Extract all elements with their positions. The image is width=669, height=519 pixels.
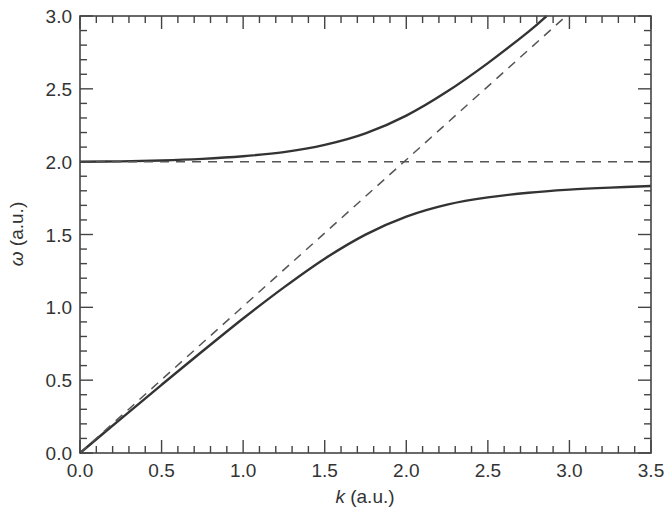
series-upper-polariton-branch — [80, 16, 547, 162]
x-tick-label: 0.5 — [148, 460, 174, 481]
x-axis-title: k (a.u.) — [335, 486, 394, 507]
y-axis-unit: (a.u.) — [6, 202, 27, 252]
plot-curves — [80, 16, 651, 453]
x-tick-label: 1.0 — [230, 460, 256, 481]
x-tick-label: 3.5 — [638, 460, 664, 481]
polariton-dispersion-chart: 0.00.51.01.52.02.53.03.5 0.00.51.01.52.0… — [0, 0, 669, 519]
series-lower-polariton-branch — [80, 186, 651, 453]
y-tick-label: 0.5 — [46, 370, 72, 391]
y-axis-variable: ω — [6, 251, 27, 266]
y-tick-label: 0.0 — [46, 443, 72, 464]
x-axis-unit: (a.u.) — [345, 486, 395, 507]
x-tick-label: 1.5 — [312, 460, 338, 481]
y-tick-label: 2.5 — [46, 79, 72, 100]
x-tick-label: 2.0 — [393, 460, 419, 481]
y-tick-labels: 0.00.51.01.52.02.53.0 — [46, 6, 72, 464]
y-tick-label: 3.0 — [46, 6, 72, 27]
x-tick-label: 2.5 — [475, 460, 501, 481]
y-axis-title: ω (a.u.) — [6, 202, 27, 266]
y-tick-label: 1.5 — [46, 225, 72, 246]
x-tick-label: 3.0 — [556, 460, 582, 481]
series-photon-light-line — [80, 16, 566, 453]
y-tick-label: 2.0 — [46, 152, 72, 173]
y-tick-label: 1.0 — [46, 297, 72, 318]
x-tick-labels: 0.00.51.01.52.02.53.03.5 — [67, 460, 664, 481]
